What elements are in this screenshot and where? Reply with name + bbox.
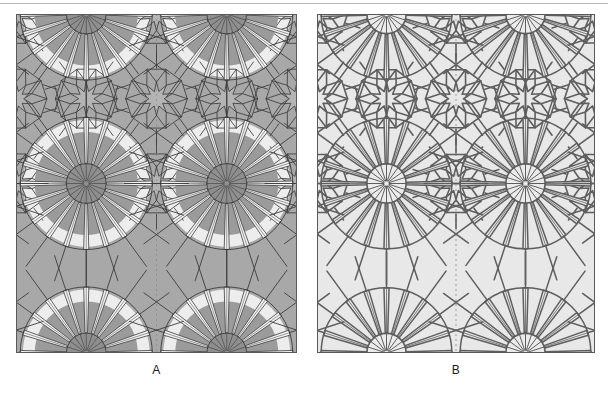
panel-a bbox=[16, 14, 297, 353]
panel-b-caption: B bbox=[317, 363, 595, 377]
panel-a-caption: A bbox=[16, 363, 297, 377]
pattern-a-svg bbox=[16, 14, 297, 353]
top-horizontal-rule bbox=[0, 3, 608, 4]
pattern-b-svg bbox=[317, 14, 595, 353]
figure-root: A B bbox=[0, 0, 608, 393]
panel-b bbox=[317, 14, 595, 353]
